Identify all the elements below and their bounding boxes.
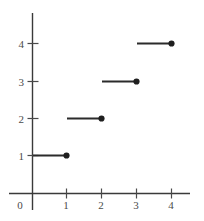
closed-point-4 [168,40,174,46]
y-tick-label-1: 1 [19,151,25,162]
x-tick-label-2: 2 [98,200,104,211]
closed-point-3 [133,78,139,84]
closed-point-2 [98,115,104,121]
y-tick-label-3: 3 [19,77,25,88]
x-tick-label-0: 0 [17,200,23,211]
step-function-chart: 0 1 2 3 4 1 2 3 4 [0,0,204,221]
closed-endpoint-dots-group [63,40,174,158]
chart-canvas [0,0,204,221]
y-tick-label-2: 2 [19,114,25,125]
step-segments-group [33,44,172,156]
x-tick-label-3: 3 [133,200,139,211]
y-tick-label-4: 4 [19,39,25,50]
x-tick-label-4: 4 [168,200,174,211]
x-tick-label-1: 1 [63,200,69,211]
closed-point-1 [63,152,69,158]
